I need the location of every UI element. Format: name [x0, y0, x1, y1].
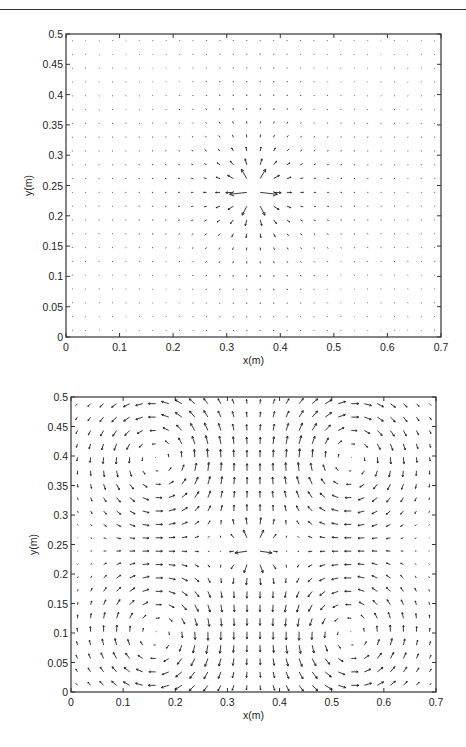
- y-tick-label: 0.1: [53, 627, 68, 639]
- y-tick-label: 0.45: [48, 421, 69, 433]
- x-tick-label: 0.7: [429, 696, 444, 708]
- y-tick-label: 0.3: [53, 509, 68, 521]
- quiver-arrows: [76, 399, 432, 692]
- y-tick-label: 0.4: [53, 450, 68, 462]
- y-axis-label: y(m): [27, 534, 39, 555]
- x-tick-label: 0.2: [168, 696, 183, 708]
- x-tick-label: 0.1: [116, 696, 131, 708]
- y-tick-label: 0.15: [48, 598, 69, 610]
- x-tick-label: 0: [68, 696, 74, 708]
- x-tick-label: 0.3: [220, 696, 235, 708]
- y-tick-label: 0.5: [53, 391, 68, 403]
- x-tick-label: 0.5: [324, 696, 339, 708]
- y-tick-label: 0.35: [48, 480, 69, 492]
- y-tick-label: 0.05: [48, 657, 69, 669]
- plot-axes-box: [71, 397, 436, 692]
- y-tick-label: 0.25: [48, 539, 69, 551]
- x-tick-label: 0.4: [272, 696, 287, 708]
- y-tick-label: 0: [62, 686, 68, 698]
- quiver-plot-bottom-canvas: 00.10.20.30.40.50.60.700.050.10.150.20.2…: [0, 0, 466, 747]
- x-tick-label: 0.6: [377, 696, 392, 708]
- y-tick-label: 0.2: [53, 568, 68, 580]
- quiver-plot-bottom: 00.10.20.30.40.50.60.700.050.10.150.20.2…: [0, 0, 466, 747]
- x-axis-label: x(m): [243, 709, 264, 721]
